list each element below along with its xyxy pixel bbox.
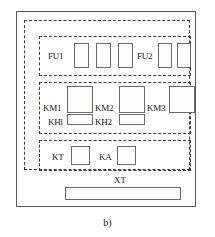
control-cabinet-outline: FU1 FU2 KM1 KHl KM2 KH2 KM3 [16,11,196,207]
label-km2: KM2 [95,104,113,113]
relay-group: KT KA [39,140,191,171]
component-fu2-a [158,43,172,68]
component-kt [71,146,90,165]
component-fu1-b [96,43,111,68]
component-fu1-c [118,43,133,68]
component-xt-terminal-block [65,187,181,200]
figure-canvas: FU1 FU2 KM1 KHl KM2 KH2 KM3 [0,0,215,237]
component-kh2 [119,114,145,125]
label-kh2: KH2 [95,118,112,127]
component-km1 [67,86,93,113]
label-fu2: FU2 [137,52,152,61]
component-kh1 [67,114,93,125]
contactor-group: KM1 KHl KM2 KH2 KM3 [39,82,191,134]
component-fu1-a [74,43,89,68]
label-km1: KM1 [43,104,61,113]
label-xt: XT [114,175,126,185]
equipment-mounting-area: FU1 FU2 KM1 KHl KM2 KH2 KM3 [24,20,190,170]
label-ka: KA [99,153,112,162]
label-kh1: KHl [48,118,63,127]
figure-caption: b) [0,217,215,228]
fuse-group: FU1 FU2 [39,36,191,76]
label-fu1: FU1 [48,52,63,61]
label-kt: KT [52,153,64,162]
component-ka [117,146,136,165]
component-km3 [169,86,195,113]
component-km2 [119,86,145,113]
label-km3: KM3 [147,104,165,113]
component-fu2-b [177,43,191,68]
